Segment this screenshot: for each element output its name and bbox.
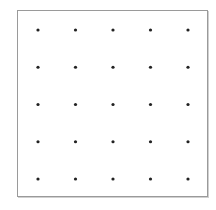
grid-dot-r3-c1	[74, 140, 77, 143]
grid-dot-r2-c4	[186, 103, 189, 106]
grid-dot-r1-c3	[149, 66, 152, 69]
grid-dot-r4-c3	[149, 177, 152, 180]
grid-dot-r1-c2	[111, 66, 114, 69]
grid-dot-r0-c3	[149, 28, 152, 31]
grid-dot-r4-c2	[111, 177, 114, 180]
grid-dot-r2-c0	[36, 103, 39, 106]
grid-dot-r1-c4	[186, 66, 189, 69]
dot-grid	[0, 0, 216, 210]
grid-dot-r3-c0	[36, 140, 39, 143]
grid-dot-r3-c2	[111, 140, 114, 143]
grid-dot-r4-c1	[74, 177, 77, 180]
grid-dot-r2-c1	[74, 103, 77, 106]
grid-dot-r0-c0	[36, 28, 39, 31]
grid-dot-r0-c1	[74, 28, 77, 31]
grid-dot-r2-c2	[111, 103, 114, 106]
grid-dot-r3-c3	[149, 140, 152, 143]
grid-dot-r0-c4	[186, 28, 189, 31]
grid-dot-r1-c1	[74, 66, 77, 69]
grid-dot-r3-c4	[186, 140, 189, 143]
grid-dot-r1-c0	[36, 66, 39, 69]
grid-dot-r2-c3	[149, 103, 152, 106]
grid-dot-r4-c0	[36, 177, 39, 180]
grid-dot-r0-c2	[111, 28, 114, 31]
grid-dot-r4-c4	[186, 177, 189, 180]
